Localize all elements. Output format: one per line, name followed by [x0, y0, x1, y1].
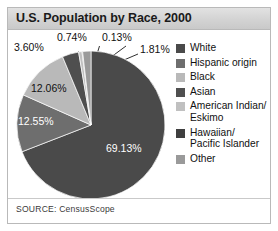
chart-figure: U.S. Population by Race, 2000 69.13% 12.…: [7, 7, 271, 224]
chart-legend: White Hispanic origin Black Asian Americ…: [176, 42, 270, 167]
legend-item-white[interactable]: White: [176, 42, 270, 54]
legend-label: American Indian/Eskimo: [190, 100, 266, 123]
page-title: U.S. Population by Race, 2000: [16, 11, 192, 25]
legend-item-black[interactable]: Black: [176, 71, 270, 83]
legend-swatch-icon: [176, 129, 185, 138]
legend-item-asian[interactable]: Asian: [176, 86, 270, 98]
plot-area: 69.13% 12.55% 12.06% 3.60% 0.74% 0.13% 1…: [8, 30, 271, 200]
legend-label: Other: [190, 153, 215, 165]
legend-swatch-icon: [176, 59, 185, 68]
pie-label-hawaiian: 0.13%: [102, 31, 132, 43]
source-note: SOURCE: CensusScope: [16, 204, 115, 214]
legend-swatch-icon: [176, 73, 185, 82]
legend-label: White: [190, 42, 216, 54]
pie-label-white: 69.13%: [106, 142, 142, 154]
pie-label-american-indian: 0.74%: [57, 31, 87, 43]
legend-label: Asian: [190, 86, 215, 98]
legend-item-other[interactable]: Other: [176, 153, 270, 165]
legend-swatch-icon: [176, 155, 185, 164]
legend-label: Black: [190, 71, 215, 83]
chart-title-band: U.S. Population by Race, 2000: [8, 8, 270, 30]
pie-label-asian: 3.60%: [14, 41, 44, 53]
source-band: SOURCE: CensusScope: [8, 198, 270, 223]
legend-swatch-icon: [176, 102, 185, 111]
legend-swatch-icon: [176, 88, 185, 97]
legend-item-hawaiian-pacific-islander[interactable]: Hawaiian/Pacific Islander: [176, 127, 270, 150]
legend-item-hispanic-origin[interactable]: Hispanic origin: [176, 57, 270, 69]
pie-label-black: 12.06%: [31, 82, 67, 94]
legend-item-american-indian-eskimo[interactable]: American Indian/Eskimo: [176, 100, 270, 123]
pie-chart: 69.13% 12.55% 12.06% 3.60% 0.74% 0.13% 1…: [10, 30, 172, 200]
legend-swatch-icon: [176, 44, 185, 53]
legend-label: Hispanic origin: [190, 57, 257, 69]
legend-label: Hawaiian/Pacific Islander: [190, 127, 259, 150]
pie-label-hispanic: 12.55%: [18, 115, 54, 127]
pie-label-other: 1.81%: [140, 43, 170, 55]
